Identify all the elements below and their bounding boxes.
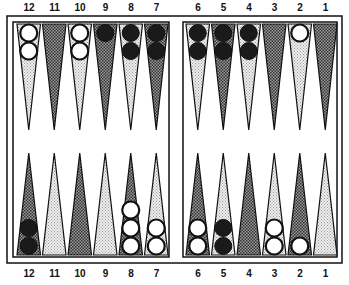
checker-white[interactable] [122, 202, 139, 219]
checker-black[interactable] [215, 220, 232, 237]
checker-black[interactable] [122, 25, 139, 42]
point-label-top-12: 12 [16, 2, 42, 13]
checker-white[interactable] [20, 43, 37, 60]
point-label-top-4: 4 [236, 2, 262, 13]
backgammon-board [0, 0, 349, 285]
checker-white[interactable] [189, 220, 206, 237]
checker-black[interactable] [148, 25, 165, 42]
checker-white[interactable] [189, 238, 206, 255]
checker-black[interactable] [215, 43, 232, 60]
point-label-top-1: 1 [313, 2, 339, 13]
checker-black[interactable] [189, 43, 206, 60]
checker-black[interactable] [122, 43, 139, 60]
point-label-bottom-6: 6 [185, 268, 211, 279]
checker-black[interactable] [20, 238, 37, 255]
point-label-top-10: 10 [67, 2, 93, 13]
point-label-top-2: 2 [287, 2, 313, 13]
point-label-top-3: 3 [262, 2, 288, 13]
point-label-top-11: 11 [42, 2, 68, 13]
checker-white[interactable] [291, 238, 308, 255]
checker-white[interactable] [291, 25, 308, 42]
point-label-bottom-12: 12 [16, 268, 42, 279]
checker-white[interactable] [122, 220, 139, 237]
checker-white[interactable] [266, 220, 283, 237]
checker-white[interactable] [20, 25, 37, 42]
checker-black[interactable] [97, 25, 114, 42]
point-label-bottom-5: 5 [211, 268, 237, 279]
checker-black[interactable] [240, 43, 257, 60]
point-label-bottom-1: 1 [313, 268, 339, 279]
checker-black[interactable] [20, 220, 37, 237]
point-label-bottom-4: 4 [236, 268, 262, 279]
checker-black[interactable] [215, 25, 232, 42]
point-label-bottom-2: 2 [287, 268, 313, 279]
checker-black[interactable] [189, 25, 206, 42]
checker-white[interactable] [71, 25, 88, 42]
point-label-top-5: 5 [211, 2, 237, 13]
checker-white[interactable] [148, 220, 165, 237]
checker-white[interactable] [148, 238, 165, 255]
checker-black[interactable] [240, 25, 257, 42]
point-label-top-9: 9 [93, 2, 119, 13]
checker-black[interactable] [148, 43, 165, 60]
checker-black[interactable] [215, 238, 232, 255]
point-label-bottom-7: 7 [144, 268, 170, 279]
point-label-top-8: 8 [118, 2, 144, 13]
point-label-bottom-11: 11 [42, 268, 68, 279]
point-label-bottom-8: 8 [118, 268, 144, 279]
point-label-bottom-3: 3 [262, 268, 288, 279]
point-label-bottom-10: 10 [67, 268, 93, 279]
checker-white[interactable] [122, 238, 139, 255]
checker-white[interactable] [71, 43, 88, 60]
checker-white[interactable] [266, 238, 283, 255]
point-label-bottom-9: 9 [93, 268, 119, 279]
point-label-top-6: 6 [185, 2, 211, 13]
point-label-top-7: 7 [144, 2, 170, 13]
